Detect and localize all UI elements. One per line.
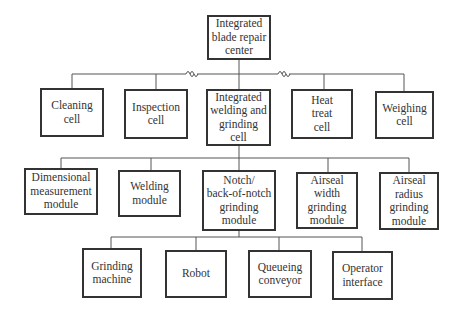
- node-inspection-cell: Inspection cell: [124, 89, 188, 139]
- node-robot: Robot: [165, 250, 227, 298]
- node-welding-module: Welding module: [118, 170, 181, 217]
- node-cleaning-cell: Cleaning cell: [40, 88, 104, 137]
- node-notch-grinding-module: Notch/ back-of-notch grinding module: [202, 170, 276, 231]
- node-operator-interface: Operator interface: [332, 251, 393, 300]
- node-label: Inspection cell: [132, 101, 180, 128]
- node-label: Dimensional measurement module: [30, 171, 91, 212]
- node-weighing-cell: Weighing cell: [375, 91, 434, 139]
- node-label: Queueing conveyor: [258, 261, 303, 288]
- node-label: Grinding machine: [91, 260, 133, 287]
- node-queueing-conveyor: Queueing conveyor: [248, 250, 312, 298]
- node-label: Integrated blade repair center: [212, 17, 267, 58]
- node-dimensional-measurement-module: Dimensional measurement module: [24, 168, 98, 215]
- node-label: Robot: [182, 267, 210, 281]
- node-integrated-blade-repair-center: Integrated blade repair center: [207, 15, 271, 60]
- node-label: Heat treat cell: [311, 94, 333, 135]
- node-label: Airseal width grinding module: [308, 174, 347, 228]
- node-label: Integrated welding and grinding cell: [210, 91, 267, 145]
- node-airseal-width-grinding-module: Airseal width grinding module: [296, 172, 358, 229]
- node-label: Weighing cell: [382, 102, 426, 129]
- node-label: Operator interface: [342, 262, 383, 289]
- node-integrated-welding-grinding-cell: Integrated welding and grinding cell: [206, 89, 271, 146]
- node-heat-treat-cell: Heat treat cell: [291, 89, 353, 139]
- node-grinding-machine: Grinding machine: [82, 248, 142, 298]
- node-airseal-radius-grinding-module: Airseal radius grinding module: [379, 172, 439, 230]
- node-label: Cleaning cell: [51, 99, 93, 126]
- node-label: Notch/ back-of-notch grinding module: [207, 174, 272, 228]
- node-label: Airseal radius grinding module: [390, 174, 429, 228]
- node-label: Welding module: [130, 180, 169, 207]
